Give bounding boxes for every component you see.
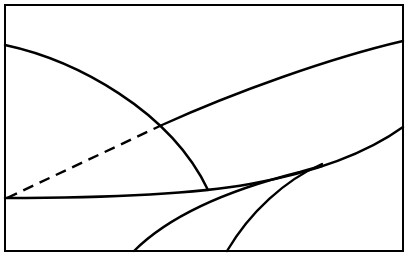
lower-right-branch-curve [227,164,322,251]
diagram-canvas [0,0,407,256]
near-horizontal-curve [5,127,403,198]
diagram-svg [0,0,407,256]
rising-curve-solid-segment [162,41,403,125]
diagram-frame [5,5,403,251]
rising-curve-dashed-segment [7,125,162,198]
